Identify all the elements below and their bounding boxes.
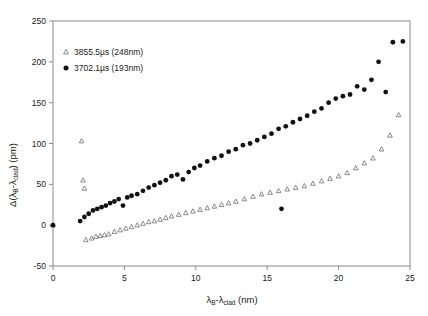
data-point-circle bbox=[51, 223, 56, 228]
data-point-triangle bbox=[112, 229, 117, 233]
data-point-circle bbox=[129, 193, 134, 198]
data-point-triangle bbox=[251, 194, 256, 198]
data-point-triangle bbox=[84, 237, 89, 241]
x-axis-tick-group: 0510152025 bbox=[51, 266, 415, 283]
data-point-circle bbox=[112, 199, 117, 204]
data-point-triangle bbox=[226, 201, 231, 205]
data-point-triangle bbox=[158, 217, 163, 221]
data-point-circle bbox=[163, 178, 168, 183]
data-point-circle bbox=[78, 219, 83, 224]
x-tick-label: 10 bbox=[191, 273, 201, 283]
data-point-triangle bbox=[362, 161, 367, 165]
data-point-circle bbox=[198, 163, 203, 168]
data-point-circle bbox=[390, 40, 395, 45]
chart-legend: 3855.5µs (248nm)3702.1µs (193nm) bbox=[64, 47, 144, 73]
data-point-triangle bbox=[205, 206, 210, 210]
data-point-circle bbox=[158, 180, 163, 185]
data-point-triangle bbox=[353, 166, 358, 170]
data-point-triangle bbox=[146, 219, 151, 223]
x-tick-label: 25 bbox=[405, 273, 415, 283]
data-point-triangle bbox=[152, 219, 157, 223]
data-point-circle bbox=[125, 195, 130, 200]
x-tick-label: 15 bbox=[262, 273, 272, 283]
y-tick-label: 150 bbox=[32, 98, 46, 108]
data-point-triangle bbox=[285, 187, 290, 191]
data-point-triangle bbox=[311, 181, 316, 185]
data-point-circle bbox=[205, 159, 210, 164]
data-point-circle bbox=[283, 124, 288, 129]
data-point-circle bbox=[186, 170, 191, 175]
y-tick-label: 250 bbox=[32, 16, 46, 26]
data-point-circle bbox=[305, 113, 310, 118]
data-point-triangle bbox=[219, 202, 224, 206]
data-point-circle bbox=[319, 106, 324, 111]
data-point-triangle bbox=[79, 139, 84, 143]
data-point-circle bbox=[333, 96, 338, 101]
data-point-circle bbox=[248, 141, 253, 146]
data-point-triangle bbox=[106, 232, 111, 236]
data-point-circle bbox=[219, 153, 224, 158]
data-point-triangle bbox=[135, 223, 140, 227]
data-point-circle bbox=[383, 90, 388, 95]
data-point-circle bbox=[400, 39, 405, 44]
data-point-triangle bbox=[388, 133, 393, 137]
data-point-circle bbox=[355, 84, 360, 89]
svg-text:Δ(λB-λclad) (pm): Δ(λB-λclad) (pm) bbox=[7, 143, 19, 207]
x-tick-label: 0 bbox=[51, 273, 56, 283]
data-point-circle bbox=[262, 135, 267, 140]
data-point-circle bbox=[99, 205, 104, 210]
data-point-circle bbox=[255, 138, 260, 143]
data-point-circle bbox=[312, 109, 317, 114]
data-point-triangle bbox=[233, 199, 238, 203]
chart-canvas: -50050100150200250 0510152025 3855.5µs (… bbox=[0, 0, 428, 316]
data-point-circle bbox=[95, 206, 100, 211]
data-point-circle bbox=[348, 92, 353, 97]
data-point-circle bbox=[276, 126, 281, 131]
data-point-circle bbox=[91, 208, 96, 213]
data-point-circle bbox=[362, 87, 367, 92]
y-tick-label: 100 bbox=[32, 139, 46, 149]
data-point-triangle bbox=[345, 170, 350, 174]
data-point-circle bbox=[121, 203, 126, 208]
data-point-triangle bbox=[336, 174, 341, 178]
data-point-triangle bbox=[328, 176, 333, 180]
scatter-chart: -50050100150200250 0510152025 3855.5µs (… bbox=[0, 0, 428, 316]
data-point-circle bbox=[279, 206, 284, 211]
data-point-circle bbox=[169, 174, 174, 179]
data-point-triangle bbox=[319, 179, 324, 183]
data-point-circle bbox=[116, 197, 121, 202]
data-point-triangle bbox=[242, 197, 247, 201]
y-tick-label: -50 bbox=[34, 261, 47, 271]
data-point-circle bbox=[141, 188, 146, 193]
data-point-circle bbox=[152, 183, 157, 188]
data-point-circle bbox=[241, 143, 246, 148]
y-tick-label: 0 bbox=[41, 220, 46, 230]
data-point-circle bbox=[108, 201, 113, 206]
data-point-triangle bbox=[191, 209, 196, 213]
data-point-triangle bbox=[379, 147, 384, 151]
data-point-triangle bbox=[293, 185, 298, 189]
data-point-triangle bbox=[81, 178, 86, 182]
y-axis-tick-group: -50050100150200250 bbox=[32, 16, 53, 271]
data-point-triangle bbox=[212, 204, 217, 208]
legend-item-label: 3702.1µs (193nm) bbox=[74, 63, 143, 73]
data-point-circle bbox=[326, 100, 331, 105]
data-point-triangle bbox=[82, 186, 87, 190]
data-point-circle bbox=[103, 203, 108, 208]
data-point-triangle bbox=[176, 212, 181, 216]
y-tick-label: 50 bbox=[37, 179, 47, 189]
data-point-circle bbox=[175, 172, 180, 177]
data-point-triangle bbox=[141, 221, 146, 225]
data-point-triangle bbox=[184, 210, 189, 214]
data-point-circle bbox=[135, 192, 140, 197]
data-point-triangle bbox=[124, 226, 129, 230]
data-point-circle bbox=[86, 211, 91, 216]
data-point-triangle bbox=[396, 112, 401, 116]
data-point-circle bbox=[376, 59, 381, 64]
data-point-triangle bbox=[302, 183, 307, 187]
data-point-triangle bbox=[259, 192, 264, 196]
data-point-triangle bbox=[371, 156, 376, 160]
data-point-circle bbox=[233, 147, 238, 152]
y-axis-title: Δ(λB-λclad) (pm) bbox=[7, 143, 19, 207]
data-point-triangle bbox=[129, 224, 134, 228]
